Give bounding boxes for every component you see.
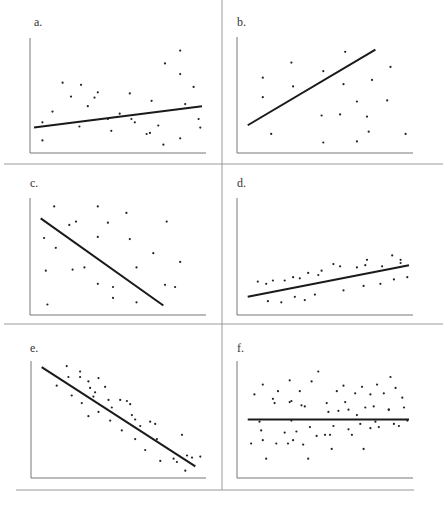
data-point [289,379,291,381]
data-point [329,434,331,436]
data-point [339,113,341,115]
panel-c: c. [30,176,206,315]
data-point [45,270,47,272]
data-point [78,125,80,127]
data-point [284,279,286,281]
data-point [369,393,371,395]
data-point [125,212,127,214]
data-point [374,421,376,423]
data-point [322,141,324,143]
data-point [107,222,109,224]
data-point [179,50,181,52]
data-point [164,62,166,64]
data-point [277,390,279,392]
panel-label: a. [34,15,42,29]
data-point [294,296,296,298]
data-point [398,425,400,427]
data-point [366,259,368,261]
data-point [67,376,69,378]
data-point [309,426,311,428]
data-point [361,386,363,388]
data-point [290,62,292,64]
data-point [130,118,132,120]
data-point [400,262,402,264]
data-point [79,376,81,378]
panel-f: f. [237,341,413,478]
data-point [87,380,89,382]
data-point [292,439,294,441]
data-point [405,133,407,135]
data-point [342,83,344,85]
data-point [356,140,358,142]
data-point [199,127,201,129]
data-point [157,124,159,126]
data-point [87,415,89,417]
data-point [262,96,264,98]
regression-line [248,50,376,126]
data-point [68,224,70,226]
data-point [342,289,344,291]
data-point [391,254,393,256]
data-point [369,427,371,429]
data-point [317,274,319,276]
data-point [97,205,99,207]
scatter-plot-grid: a. b. c. d. e. f. [0,0,443,506]
data-point [75,221,77,223]
data-point [164,284,166,286]
data-point [93,97,95,99]
data-point [376,384,378,386]
regression-line [34,106,202,127]
data-point [359,423,361,425]
panel-label: d. [237,176,246,190]
data-point [154,423,156,425]
data-point [262,384,264,386]
data-point [389,376,391,378]
data-point [179,261,181,263]
data-point [162,144,164,146]
data-point [135,301,137,303]
panel-a: a. [30,15,206,153]
data-point [307,458,309,460]
data-point [383,392,385,394]
data-point [366,116,368,118]
data-point [265,283,267,285]
data-point [173,458,175,460]
data-point [174,286,176,288]
data-point [363,448,365,450]
data-point [109,420,111,422]
data-point [344,51,346,53]
data-point [324,434,326,436]
data-point [272,398,274,400]
data-point [111,406,113,408]
data-point [267,300,269,302]
data-point [258,421,260,423]
data-point [129,92,131,94]
data-point [184,470,186,472]
data-point [314,294,316,296]
data-point [186,454,188,456]
data-point [139,425,141,427]
data-point [53,205,55,207]
data-point [307,272,309,274]
data-point [56,385,58,387]
data-point [302,444,304,446]
data-point [388,409,390,411]
data-point [87,105,89,107]
data-point [393,278,395,280]
data-point [304,299,306,301]
data-point [386,99,388,101]
data-point [97,236,99,238]
data-point [119,399,121,401]
data-point [179,137,181,139]
data-point [191,457,193,459]
data-point [92,396,94,398]
data-point [342,385,344,387]
data-point [378,426,380,428]
data-point [280,301,282,303]
data-point [112,297,114,299]
data-point [149,132,151,134]
data-point [379,283,381,285]
data-point [119,113,121,115]
data-point [79,370,81,372]
data-point [287,442,289,444]
